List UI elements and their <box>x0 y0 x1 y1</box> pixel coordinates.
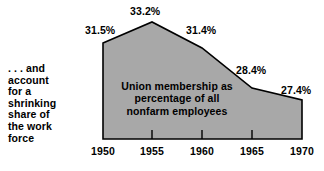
axis-tick-label-1970: 1970 <box>284 145 320 157</box>
axis-tick-label-1955: 1955 <box>134 145 170 157</box>
data-label-1965: 28.4% <box>236 64 266 76</box>
axis-tick-label-1960: 1960 <box>184 145 220 157</box>
axis-tick-label-1965: 1965 <box>234 145 270 157</box>
axis-tick-label-1950: 1950 <box>85 145 121 157</box>
data-label-1960: 31.4% <box>186 24 216 36</box>
union-membership-figure: . . . and account for a shrinking share … <box>0 0 324 171</box>
data-label-1955: 33.2% <box>130 5 160 17</box>
area-annotation-text: Union membership as percentage of all no… <box>104 80 250 117</box>
data-label-1950: 31.5% <box>85 24 115 36</box>
data-label-1970: 27.4% <box>281 84 311 96</box>
